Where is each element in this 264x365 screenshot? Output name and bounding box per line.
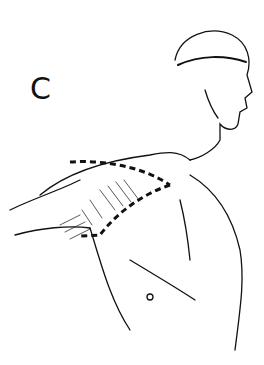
anatomical-drawing [0, 0, 264, 365]
illustration: C [0, 0, 264, 365]
shoulder-outline [40, 153, 190, 195]
head-outline [175, 31, 252, 160]
dashed-incision-lines [70, 162, 170, 236]
